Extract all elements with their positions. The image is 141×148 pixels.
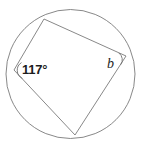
angle-arc-b-icon xyxy=(119,53,122,65)
angle-variable-label-b: b xyxy=(107,57,114,71)
geometry-figure: 117° b xyxy=(0,0,141,148)
inscribed-quadrilateral xyxy=(14,19,126,135)
angle-measure-label-117: 117° xyxy=(22,63,47,76)
